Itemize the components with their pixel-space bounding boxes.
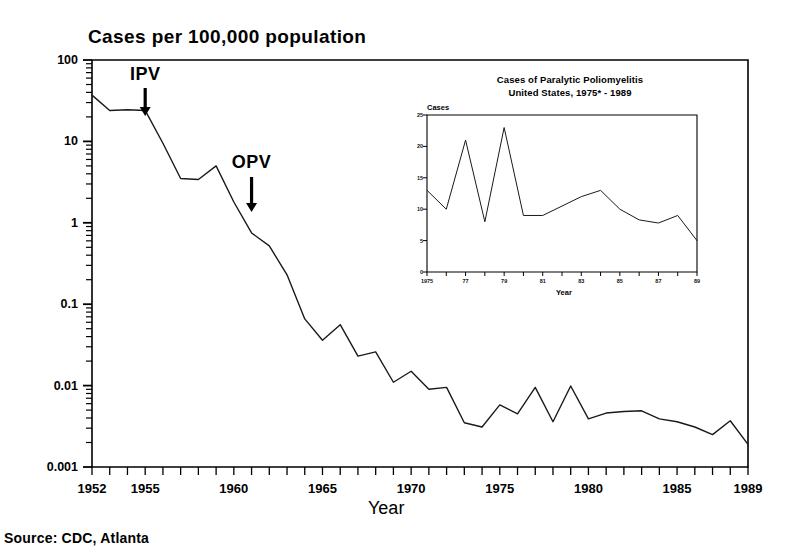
inset-y-tick-label: 10 [408,206,423,212]
x-axis-title: Year [368,498,404,519]
x-tick-label: 1952 [78,481,107,496]
y-tick-label: 1 [0,216,78,230]
y-tick-label: 0.001 [0,460,78,474]
y-tick-label: 0.1 [0,297,78,311]
inset-y-tick-label: 0 [408,269,423,275]
x-tick-label: 1975 [485,481,514,496]
inset-x-axis-title: Year [556,288,572,297]
inset-y-tick-label: 20 [408,143,423,149]
x-tick-label: 1980 [574,481,603,496]
inset-y-tick-label: 5 [408,238,423,244]
source-caption: Source: CDC, Atlanta [4,530,149,546]
inset-x-tick-label: 79 [501,278,507,284]
inset-x-tick-label: 87 [655,278,661,284]
x-tick-label: 1960 [219,481,248,496]
annotation-arrows [140,88,257,212]
inset-x-tick-label: 1975 [421,278,433,284]
inset-y-axis-title: Cases [427,103,449,112]
x-tick-label: 1989 [734,481,763,496]
y-tick-label: 100 [0,53,78,67]
annotation-label-ipv: IPV [130,64,161,85]
annotation-label-opv: OPV [232,152,272,173]
inset-title-line-1: Cases of Paralytic Poliomyelitis [497,74,643,85]
inset-plot-frame [404,68,714,296]
polio-incidence-figure: Cases per 100,000 population 1001010.10.… [0,0,795,558]
x-tick-label: 1955 [131,481,160,496]
x-tick-label: 1970 [397,481,426,496]
chart-canvas [0,0,795,558]
inset-x-tick-label: 77 [463,278,469,284]
inset-y-tick-label: 25 [408,112,423,118]
x-tick-label: 1985 [663,481,692,496]
inset-x-tick-label: 83 [578,278,584,284]
main-x-axis-ticks [92,467,748,475]
inset-x-tick-label: 81 [540,278,546,284]
y-tick-label: 0.01 [0,379,78,393]
inset-y-tick-label: 15 [408,175,423,181]
inset-title-line-2: United States, 1975* - 1989 [508,87,631,98]
x-tick-label: 1965 [308,481,337,496]
inset-x-tick-label: 85 [617,278,623,284]
y-tick-label: 10 [0,134,78,148]
inset-x-tick-label: 89 [694,278,700,284]
main-y-axis-ticks [83,60,92,467]
